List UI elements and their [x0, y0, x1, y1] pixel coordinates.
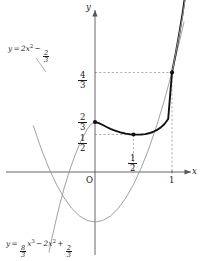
y-tick-1-2-numerator: 1	[78, 134, 87, 143]
equation-cubic-exponent2: 2	[53, 238, 56, 244]
equation-cubic-frac1-numerator: 8	[20, 245, 26, 252]
equation-parabola-frac-numerator: 2	[43, 50, 49, 57]
equation-cubic-term2: 2x	[44, 239, 53, 248]
curve-parabola	[33, 22, 184, 222]
equation-cubic-frac2-denominator: 3	[66, 251, 72, 259]
y-axis-arrow	[92, 10, 97, 17]
equation-cubic-fraction2: 2 3	[66, 245, 72, 259]
equation-cubic-fraction1: 8 3	[20, 245, 26, 259]
x-tick-1-2-numerator: 1	[128, 154, 137, 163]
equation-parabola-exponent1: 2	[30, 43, 33, 49]
math-figure: y x O 4 3 2 3 1 2 1 2 1 y=2x2− 2	[0, 0, 203, 261]
y-tick-4-3-numerator: 4	[78, 71, 87, 80]
equation-cubic-frac1-denominator: 3	[20, 251, 26, 259]
x-tick-1: 1	[169, 175, 174, 185]
x-tick-1-2: 1 2	[128, 146, 137, 173]
y-tick-2-3-numerator: 2	[78, 113, 87, 122]
y-tick-1-2: 1 2	[78, 126, 87, 153]
equation-parabola-equals: =	[13, 44, 19, 53]
point-1-4over3	[170, 70, 174, 74]
point-half-half	[131, 132, 135, 136]
equation-cubic-lhs: y	[6, 239, 10, 248]
equation-parabola-term1: 2x	[21, 44, 30, 53]
equation-cubic-exponent1: 3	[32, 238, 35, 244]
equation-cubic-equals: =	[11, 239, 17, 248]
equation-cubic-minus: −	[36, 239, 42, 248]
equation-parabola-frac-denominator: 3	[43, 56, 49, 64]
x-axis-label: x	[192, 166, 197, 176]
equation-parabola-minus: −	[35, 44, 41, 53]
y-tick-4-3-denominator: 3	[78, 80, 87, 90]
x-tick-1-2-denominator: 2	[128, 163, 137, 173]
x-axis-arrow	[185, 169, 192, 174]
curve-cubic-left-tail	[49, 122, 95, 252]
y-axis-label: y	[86, 2, 91, 12]
y-tick-4-3: 4 3	[78, 63, 87, 90]
y-tick-1-2-denominator: 2	[78, 143, 87, 153]
equation-parabola: y=2x2− 2 3	[8, 43, 50, 64]
equation-cubic-frac2-numerator: 2	[66, 245, 72, 252]
point-0-2over3	[93, 120, 97, 124]
equation-cubic-plus: +	[57, 239, 63, 248]
origin-label: O	[86, 175, 93, 185]
graph-canvas	[0, 0, 203, 261]
equation-parabola-fraction: 2 3	[43, 50, 49, 64]
equation-cubic: y= 8 3 x3−2x2+ 2 3	[6, 238, 73, 259]
equation-parabola-lhs: y	[8, 44, 12, 53]
